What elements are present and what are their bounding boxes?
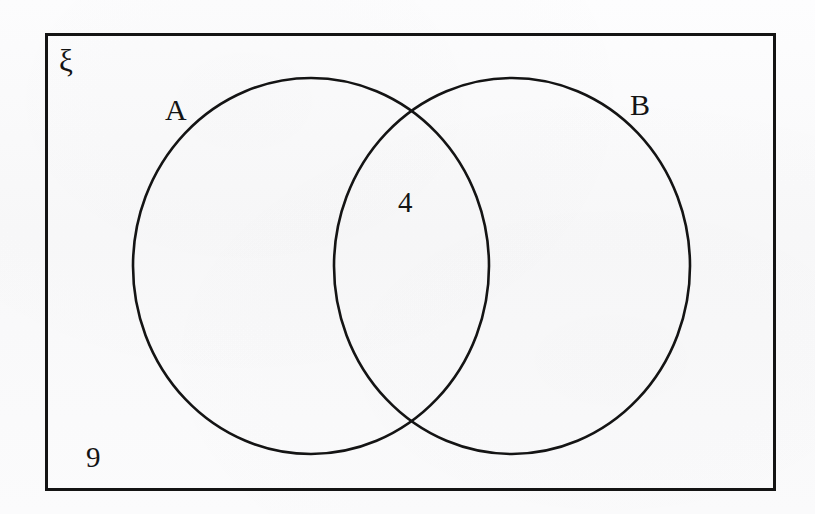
universal-set-symbol: ξ	[59, 45, 73, 76]
set-b-circle	[334, 78, 690, 454]
outside-count-label: 9	[86, 443, 101, 472]
set-b-label: B	[630, 90, 650, 120]
intersection-count-label: 4	[398, 188, 413, 217]
set-a-label: A	[165, 95, 187, 125]
venn-diagram-figure: ξ A B 4 9	[0, 0, 815, 514]
venn-diagram-canvas	[0, 0, 815, 514]
set-a-circle	[133, 78, 489, 454]
